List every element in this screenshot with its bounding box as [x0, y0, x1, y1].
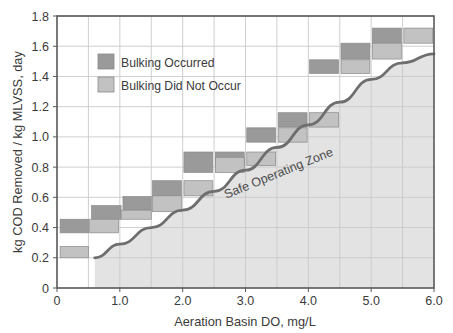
x-tick-label: 0 — [54, 294, 61, 308]
x-tick-label: 6.0 — [425, 294, 442, 308]
y-tick-label: 1.8 — [32, 10, 49, 24]
chart-bar — [121, 210, 151, 219]
chart-bar — [92, 206, 122, 220]
chart-bar — [153, 181, 182, 196]
x-axis-title: Aeration Basin DO, mg/L — [174, 314, 316, 329]
y-axis-tick-labels: 00.20.40.60.81.01.21.41.61.8 — [32, 10, 57, 296]
chart-bar — [310, 60, 339, 74]
y-tick-label: 0.8 — [32, 161, 49, 175]
chart-bar — [341, 60, 370, 74]
chart-bar — [247, 128, 276, 142]
chart-bar — [123, 197, 151, 211]
chart-bar — [60, 219, 88, 233]
legend-label: Bulking Occurred — [121, 56, 214, 70]
chart-bar — [372, 43, 401, 59]
y-axis-title: kg COD Removed / kg MLVSS, day — [10, 51, 25, 253]
y-tick-label: 1.0 — [32, 130, 49, 144]
y-tick-label: 0.6 — [32, 191, 49, 205]
x-tick-label: 5.0 — [362, 294, 379, 308]
chart-bar — [341, 43, 370, 59]
chart-figure: 01.02.03.04.05.06.0 00.20.40.60.81.01.21… — [0, 0, 453, 333]
y-tick-label: 0.4 — [32, 221, 49, 235]
y-tick-label: 1.6 — [32, 40, 49, 54]
chart-bar — [372, 28, 401, 43]
legend-swatch — [98, 54, 114, 69]
chart-bar — [153, 196, 182, 212]
chart-bar — [60, 246, 88, 257]
y-tick-label: 1.4 — [32, 70, 49, 84]
x-tick-label: 4.0 — [300, 294, 317, 308]
legend-swatch — [98, 77, 114, 92]
x-axis-tick-labels: 01.02.03.04.05.06.0 — [54, 288, 443, 308]
chart-bar — [404, 28, 433, 43]
legend-label: Bulking Did Not Occur — [121, 79, 241, 93]
x-tick-label: 2.0 — [174, 294, 191, 308]
x-tick-label: 3.0 — [237, 294, 254, 308]
y-tick-label: 0 — [42, 282, 49, 296]
chart-bar — [184, 152, 213, 172]
y-tick-label: 0.2 — [32, 251, 49, 265]
chart-bar — [90, 219, 119, 233]
x-tick-label: 1.0 — [111, 294, 128, 308]
chart-canvas: 01.02.03.04.05.06.0 00.20.40.60.81.01.21… — [0, 0, 453, 333]
y-tick-label: 1.2 — [32, 100, 49, 114]
